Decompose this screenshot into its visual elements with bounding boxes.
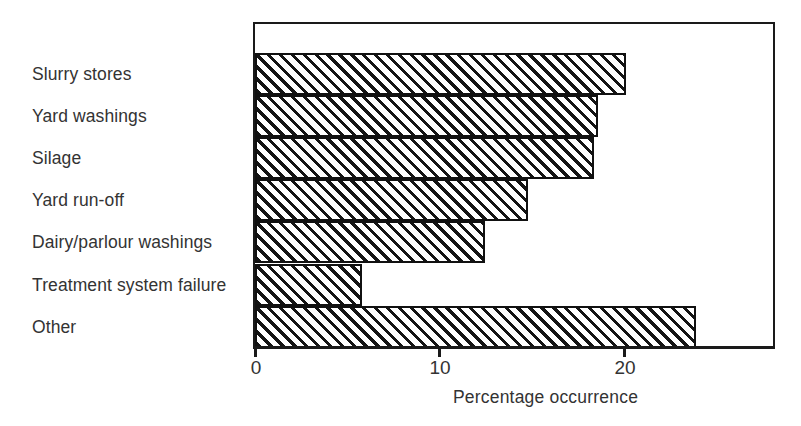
category-label-list: Slurry stores Yard washings Silage Yard …: [32, 53, 242, 348]
bar-chart: Slurry stores Yard washings Silage Yard …: [0, 0, 801, 426]
category-label-dairy-parlour-washings: Dairy/parlour washings: [32, 221, 212, 263]
bar-slurry-stores: [255, 53, 626, 95]
bar-yard-washings: [255, 95, 598, 137]
x-tick-label-0: 0: [251, 357, 262, 379]
x-tick-0: [254, 348, 257, 357]
x-axis-title-wrap: Percentage occurrence: [0, 387, 801, 408]
x-axis-title: Percentage occurrence: [453, 387, 638, 408]
x-tick-10: [438, 348, 441, 357]
category-label-other: Other: [32, 306, 76, 348]
bar-silage: [255, 137, 594, 179]
x-tick-label-10: 10: [429, 357, 450, 379]
category-label-yard-washings: Yard washings: [32, 95, 147, 137]
x-axis-line: [253, 346, 775, 349]
x-tick-20: [623, 348, 626, 357]
category-label-silage: Silage: [32, 137, 81, 179]
bar-treatment-system-failure: [255, 264, 362, 306]
bars-area: [255, 53, 773, 348]
x-tick-label-20: 20: [614, 357, 635, 379]
category-label-slurry-stores: Slurry stores: [32, 53, 132, 95]
bar-yard-run-off: [255, 179, 528, 221]
bar-dairy-parlour-washings: [255, 221, 485, 263]
category-label-treatment-system-failure: Treatment system failure: [32, 264, 226, 306]
category-label-yard-run-off: Yard run-off: [32, 179, 124, 221]
bar-other: [255, 306, 696, 348]
